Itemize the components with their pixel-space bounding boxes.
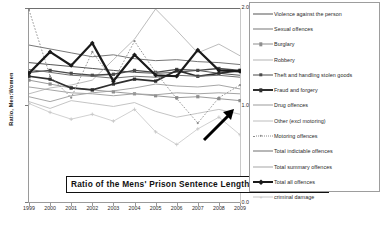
chart-legend: Violence against the personSexual offenc… bbox=[249, 2, 380, 192]
chart-screenshot: Ratio, Men:Women 2.0 1.0 0.0 19992000200… bbox=[0, 0, 381, 225]
legend-key-icon bbox=[252, 54, 274, 65]
legend-item[interactable]: Motoring offences bbox=[252, 128, 377, 143]
x-tick-label-2003: 2003 bbox=[102, 205, 124, 211]
legend-label: Total indictable offences bbox=[274, 148, 333, 154]
legend-label: Sexual offences bbox=[274, 26, 313, 32]
legend-item[interactable]: Other (excl motoring) bbox=[252, 113, 377, 128]
series-lines bbox=[28, 8, 241, 203]
annotation-arrow bbox=[204, 109, 234, 140]
x-tick-label-2001: 2001 bbox=[60, 205, 82, 211]
legend-label: Burglary bbox=[274, 41, 294, 47]
legend-label: Total all offences bbox=[274, 179, 315, 185]
legend-label: Theft and handling stolen goods bbox=[274, 72, 352, 78]
legend-item[interactable]: Burglary bbox=[252, 37, 377, 52]
legend-item[interactable]: Robbery bbox=[252, 52, 377, 67]
legend-key-icon bbox=[252, 131, 274, 142]
legend-key-icon bbox=[252, 146, 274, 157]
legend-label: Robbery bbox=[274, 57, 295, 63]
x-tick-label-2004: 2004 bbox=[124, 205, 146, 211]
legend-item[interactable]: Total summary offences bbox=[252, 159, 377, 174]
x-tick-label-2005: 2005 bbox=[145, 205, 167, 211]
x-tick-label-2002: 2002 bbox=[81, 205, 103, 211]
x-tick-label-2006: 2006 bbox=[166, 205, 188, 211]
legend-item[interactable]: Sexual offences bbox=[252, 21, 377, 36]
legend-key-icon bbox=[252, 115, 274, 126]
x-tick-label-2008: 2008 bbox=[208, 205, 230, 211]
legend-item[interactable]: Total indictable offences bbox=[252, 144, 377, 159]
legend-key-icon bbox=[252, 39, 274, 50]
series-8 bbox=[28, 9, 241, 124]
legend-label: Total summary offences bbox=[274, 164, 332, 170]
legend-item[interactable]: +criminal damage bbox=[252, 190, 377, 205]
legend-key-icon bbox=[252, 23, 274, 34]
x-tick-label-2000: 2000 bbox=[39, 205, 61, 211]
legend-item[interactable]: Drug offences bbox=[252, 98, 377, 113]
legend-item[interactable]: Fraud and forgery bbox=[252, 82, 377, 97]
x-tick-label-1999: 1999 bbox=[18, 205, 40, 211]
legend-label: Violence against the person bbox=[274, 11, 342, 17]
legend-key-icon bbox=[252, 8, 274, 19]
legend-item[interactable]: Total all offences bbox=[252, 174, 377, 189]
legend-key-icon bbox=[252, 161, 274, 172]
legend-item[interactable]: Violence against the person bbox=[252, 6, 377, 21]
legend-key-icon bbox=[252, 85, 274, 96]
legend-key-icon: + bbox=[252, 192, 274, 203]
legend-key-icon bbox=[252, 69, 274, 80]
series-11 bbox=[28, 41, 241, 84]
x-axis-labels: 1999200020012002200320042005200620072008… bbox=[28, 205, 241, 217]
x-tick-label-2009: 2009 bbox=[229, 205, 251, 211]
series-12 bbox=[28, 102, 241, 147]
legend-label: Fraud and forgery bbox=[274, 87, 318, 93]
legend-label: criminal damage bbox=[274, 194, 314, 200]
legend-item[interactable]: Theft and handling stolen goods bbox=[252, 67, 377, 82]
x-tick-label-2007: 2007 bbox=[187, 205, 209, 211]
y-axis-title: Ratio, Men:Women bbox=[8, 62, 14, 136]
legend-key-icon bbox=[252, 100, 274, 111]
legend-label: Other (excl motoring) bbox=[274, 118, 326, 124]
legend-key-icon bbox=[252, 176, 274, 187]
legend-label: Motoring offences bbox=[274, 133, 318, 139]
legend-label: Drug offences bbox=[274, 102, 308, 108]
